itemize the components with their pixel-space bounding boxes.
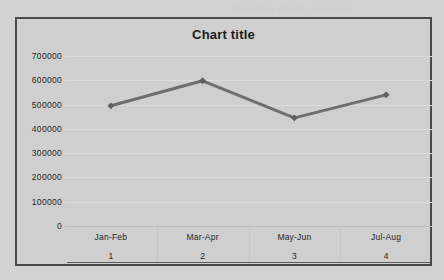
category-label: May-Jun — [277, 232, 311, 242]
y-tick-label: 100000 — [16, 197, 62, 207]
category-axis-cell: May-Jun3 — [249, 227, 341, 265]
category-label: Jul-Aug — [371, 232, 401, 242]
line-series-svg — [65, 56, 432, 226]
category-label: Jan-Feb — [95, 232, 128, 242]
category-index-label: 2 — [200, 251, 205, 261]
series-line — [111, 81, 386, 118]
category-label: Mar-Apr — [187, 232, 219, 242]
category-axis-cell: Mar-Apr2 — [157, 227, 249, 265]
y-tick-label: 0 — [16, 221, 62, 231]
y-tick-label: 500000 — [16, 100, 62, 110]
y-axis-tick-labels: 7000006000005000004000003000002000001000… — [17, 56, 62, 226]
y-tick-label: 700000 — [16, 51, 62, 61]
y-tick-label: 600000 — [16, 75, 62, 85]
category-axis-cell: Jan-Feb1 — [65, 227, 157, 265]
data-point-marker[interactable] — [107, 102, 114, 109]
scan-bleed-through-text: Excel 2007 tutorial - chart title — [232, 2, 438, 14]
plot-area — [65, 56, 432, 226]
category-index-label: 3 — [292, 251, 297, 261]
data-point-marker[interactable] — [383, 91, 390, 98]
chart-inner: Chart title 7000006000005000004000003000… — [17, 19, 430, 264]
y-tick-label: 400000 — [16, 124, 62, 134]
y-tick-label: 300000 — [16, 148, 62, 158]
y-tick-label: 200000 — [16, 172, 62, 182]
category-axis: Jan-Feb1Mar-Apr2May-Jun3Jul-Aug4 — [65, 227, 432, 265]
category-index-label: 4 — [384, 251, 389, 261]
category-axis-baseline — [67, 262, 430, 263]
category-axis-cell: Jul-Aug4 — [340, 227, 432, 265]
category-index-label: 1 — [109, 251, 114, 261]
chart-title: Chart title — [17, 27, 430, 42]
chart-frame: Chart title 7000006000005000004000003000… — [15, 17, 432, 266]
